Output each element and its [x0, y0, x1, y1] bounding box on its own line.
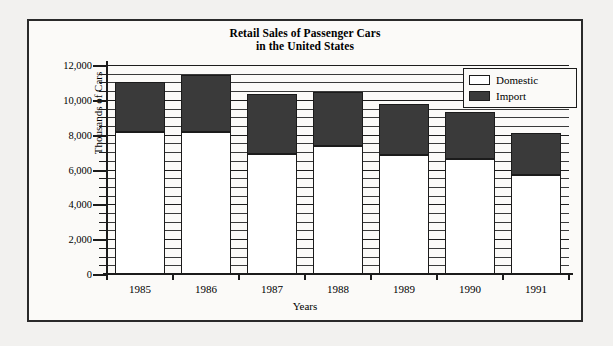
- bar-1990: [445, 112, 495, 274]
- y-axis-tick-labels: 02,0004,0006,0008,00010,00012,000: [29, 21, 92, 321]
- chart-title-line-2: in the United States: [29, 40, 581, 53]
- y-axis-minor-tick: [99, 143, 107, 144]
- x-axis-tick: [304, 273, 306, 280]
- bar-segment-import-1988: [313, 92, 363, 146]
- x-axis-tick-label-1985: 1985: [129, 283, 151, 295]
- y-axis-minor-tick: [99, 109, 107, 110]
- y-axis-minor-tick: [99, 74, 107, 75]
- bar-segment-import-1985: [115, 82, 165, 132]
- chart-legend: Domestic Import: [463, 68, 577, 108]
- x-axis-tick: [370, 273, 372, 280]
- x-axis-tick-label-1991: 1991: [525, 283, 547, 295]
- legend-label-domestic: Domestic: [496, 75, 538, 86]
- legend-label-import: Import: [496, 91, 526, 102]
- y-axis-minor-tick: [99, 126, 107, 127]
- y-axis-major-tick: [93, 135, 107, 137]
- y-axis-major-tick: [93, 100, 107, 102]
- y-axis-tick-label: 6,000: [68, 164, 92, 175]
- bar-segment-domestic-1986: [181, 132, 231, 274]
- x-axis-tick-label-1990: 1990: [459, 283, 481, 295]
- y-axis-tick-label: 0: [87, 269, 92, 280]
- y-axis-minor-tick: [99, 196, 107, 197]
- x-axis-tick-label-1988: 1988: [327, 283, 349, 295]
- bar-segment-import-1986: [181, 75, 231, 132]
- y-axis-major-tick: [93, 65, 107, 67]
- bar-1989: [379, 104, 429, 274]
- y-axis-tick-label: 10,000: [63, 94, 92, 105]
- y-axis-major-tick: [93, 239, 107, 241]
- y-axis-tick-label: 12,000: [63, 60, 92, 71]
- bar-segment-domestic-1988: [313, 146, 363, 274]
- legend-swatch-import-icon: [469, 91, 490, 101]
- bar-1988: [313, 92, 363, 274]
- y-axis-tick-label: 8,000: [68, 129, 92, 140]
- y-axis-title: Thousands of Cars: [92, 38, 104, 188]
- bar-segment-import-1989: [379, 104, 429, 155]
- y-axis-minor-tick: [99, 213, 107, 214]
- y-axis-major-tick: [93, 274, 107, 276]
- bar-1985: [115, 82, 165, 274]
- y-axis-tick-label: 4,000: [68, 199, 92, 210]
- y-axis-minor-tick: [99, 257, 107, 258]
- legend-item-import: Import: [469, 88, 571, 104]
- bar-segment-import-1991: [511, 133, 561, 175]
- y-axis-minor-tick: [99, 248, 107, 249]
- chart-frame: Retail Sales of Passenger Cars in the Un…: [27, 19, 583, 322]
- x-axis-tick-label-1986: 1986: [195, 283, 217, 295]
- x-axis-tick: [568, 273, 570, 280]
- y-axis-minor-tick: [99, 178, 107, 179]
- y-axis-minor-tick: [99, 222, 107, 223]
- x-axis-tick: [172, 273, 174, 280]
- bar-segment-domestic-1989: [379, 155, 429, 274]
- y-axis-minor-tick: [99, 161, 107, 162]
- chart-title: Retail Sales of Passenger Cars in the Un…: [29, 27, 581, 53]
- x-axis-tick: [436, 273, 438, 280]
- bar-segment-domestic-1987: [247, 154, 297, 274]
- bar-1986: [181, 75, 231, 274]
- bar-segment-domestic-1985: [115, 132, 165, 274]
- y-axis-minor-tick: [99, 265, 107, 266]
- legend-swatch-domestic-icon: [469, 75, 490, 85]
- y-axis-minor-tick: [99, 152, 107, 153]
- bar-segment-domestic-1990: [445, 159, 495, 274]
- bar-segment-import-1987: [247, 94, 297, 154]
- y-axis-tick-label: 2,000: [68, 234, 92, 245]
- x-axis-tick: [238, 273, 240, 280]
- x-axis-title: Years: [29, 300, 581, 312]
- bar-segment-domestic-1991: [511, 175, 561, 274]
- x-axis-tick-label-1987: 1987: [261, 283, 283, 295]
- y-axis-major-tick: [93, 170, 107, 172]
- bar-segment-import-1990: [445, 112, 495, 159]
- x-axis-tick: [502, 273, 504, 280]
- gridline: [107, 65, 569, 66]
- x-axis-tick: [106, 273, 108, 280]
- bar-1987: [247, 94, 297, 274]
- y-axis-minor-tick: [99, 82, 107, 83]
- y-axis-major-tick: [93, 204, 107, 206]
- y-axis-minor-tick: [99, 91, 107, 92]
- bar-1991: [511, 133, 561, 274]
- chart-title-line-1: Retail Sales of Passenger Cars: [29, 27, 581, 40]
- legend-item-domestic: Domestic: [469, 72, 571, 88]
- x-axis-tick-label-1989: 1989: [393, 283, 415, 295]
- y-axis-minor-tick: [99, 117, 107, 118]
- y-axis-minor-tick: [99, 187, 107, 188]
- y-axis-minor-tick: [99, 230, 107, 231]
